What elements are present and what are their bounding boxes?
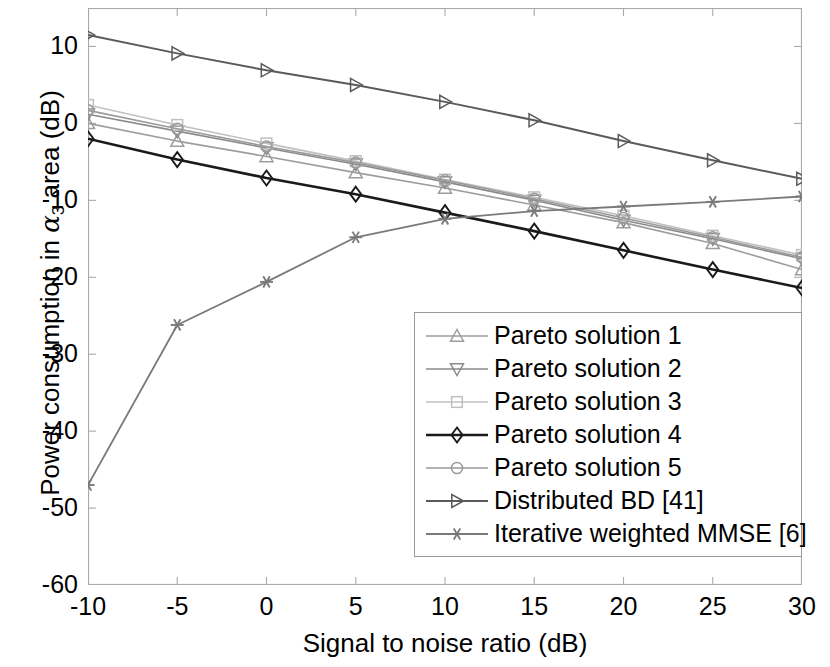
legend-marker-circle-icon (424, 457, 490, 479)
legend-item-7[interactable]: Iterative weighted MMSE [6] (415, 517, 801, 550)
legend-label: Iterative weighted MMSE [6] (494, 521, 807, 546)
legend-marker-triangle-up-icon (424, 325, 490, 347)
legend-item-2[interactable]: Pareto solution 2 (415, 352, 801, 385)
legend-item-1[interactable]: Pareto solution 1 (415, 319, 801, 352)
x-axis-tick-label: 0 (232, 594, 302, 619)
data-point-marker (171, 319, 184, 330)
y-axis-tick-label: -30 (14, 341, 78, 366)
legend-item-5[interactable]: Pareto solution 5 (415, 451, 801, 484)
x-axis-tick-label: -10 (53, 594, 123, 619)
legend-marker-asterisk-icon (424, 523, 490, 545)
legend-label: Pareto solution 3 (494, 389, 682, 414)
legend-item-6[interactable]: Distributed BD [41] (415, 484, 801, 517)
legend-marker-triangle-right-icon (424, 490, 490, 512)
series-1 (88, 117, 802, 275)
data-point-marker (451, 528, 464, 539)
x-axis-tick-label: 10 (410, 594, 480, 619)
legend-item-4[interactable]: Pareto solution 4 (415, 418, 801, 451)
legend-label: Pareto solution 2 (494, 356, 682, 381)
series-6 (88, 28, 802, 185)
legend-marker-diamond-icon (424, 424, 490, 446)
y-axis-tick-label: -10 (14, 187, 78, 212)
x-axis-tick-label: 15 (499, 594, 569, 619)
legend: Pareto solution 1Pareto solution 2Pareto… (414, 312, 802, 557)
legend-marker-square-icon (424, 391, 490, 413)
x-axis-tick-label: 5 (321, 594, 391, 619)
x-axis-tick-labels: -10-5051015202530 (0, 594, 830, 628)
figure: Power consumption in α3 area (dB) 100-10… (0, 0, 830, 667)
y-axis-tick-label: -20 (14, 264, 78, 289)
legend-marker-triangle-down-icon (424, 358, 490, 380)
legend-label: Pareto solution 1 (494, 323, 682, 348)
data-point-marker (260, 276, 273, 287)
x-axis-tick-label: 25 (678, 594, 748, 619)
legend-label: Distributed BD [41] (494, 488, 704, 513)
x-axis-tick-label: 20 (589, 594, 659, 619)
y-axis-tick-label: -50 (14, 495, 78, 520)
legend-item-3[interactable]: Pareto solution 3 (415, 385, 801, 418)
y-axis-tick-label: 0 (14, 110, 78, 135)
data-point-marker (706, 196, 719, 207)
y-axis-tick-label: -40 (14, 418, 78, 443)
x-axis-title: Signal to noise ratio (dB) (88, 628, 802, 659)
data-point-marker (349, 232, 362, 243)
x-axis-tick-label: -5 (142, 594, 212, 619)
y-axis-tick-label: 10 (14, 33, 78, 58)
legend-label: Pareto solution 4 (494, 422, 682, 447)
legend-label: Pareto solution 5 (494, 455, 682, 480)
series-line (88, 123, 802, 269)
x-axis-tick-label: 30 (767, 594, 830, 619)
series-line (88, 35, 802, 179)
series-line (88, 139, 802, 288)
y-axis-tick-labels: 100-10-20-30-40-50-60 (14, 0, 78, 667)
